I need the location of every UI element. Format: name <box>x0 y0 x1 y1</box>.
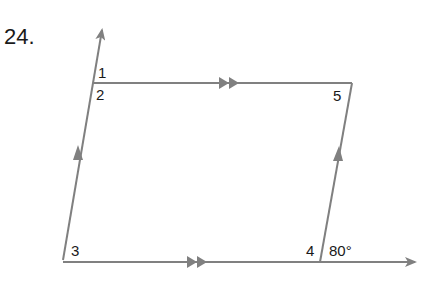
angle-label-4: 4 <box>306 242 314 259</box>
right-side <box>320 83 352 262</box>
top-double-arrow-icon <box>219 77 239 89</box>
angle-label-1: 1 <box>98 64 106 81</box>
angle-label-2: 2 <box>96 86 104 103</box>
bottom-double-arrow-icon <box>187 256 207 268</box>
angle-label-80-degrees: 80° <box>329 242 352 259</box>
right-single-arrow-icon <box>333 146 343 161</box>
angle-label-5: 5 <box>333 87 341 104</box>
angle-label-3: 3 <box>71 242 79 259</box>
left-side-ray <box>63 30 102 260</box>
parallelogram-diagram: 1 2 3 4 5 80° <box>0 0 433 286</box>
